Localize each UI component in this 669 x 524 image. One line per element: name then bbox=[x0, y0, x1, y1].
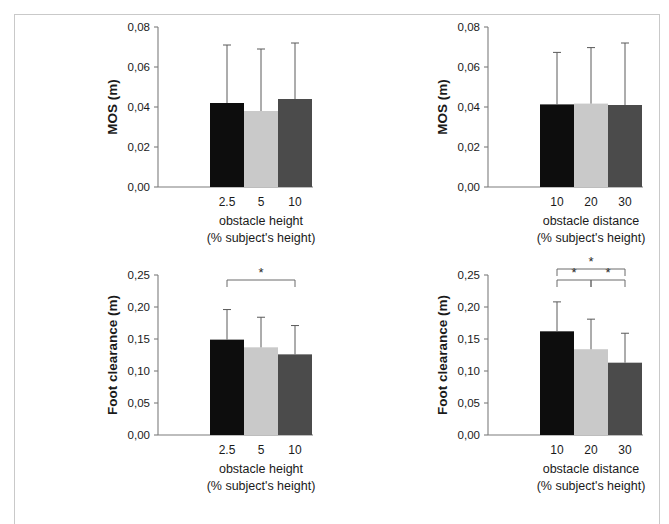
y-tick-label: 0,20 bbox=[458, 301, 480, 313]
significance-star: * bbox=[605, 265, 610, 280]
error-bar-5 bbox=[257, 317, 265, 347]
x-category-label: 2.5 bbox=[219, 195, 236, 209]
error-bar-2.5 bbox=[223, 310, 231, 340]
panel-foot-clearance-obstacle-height: 0,000,050,100,150,200,252.5510*Foot clea… bbox=[95, 258, 325, 498]
x-axis-subtitle: (% subject's height) bbox=[207, 479, 316, 493]
significance-star: * bbox=[588, 254, 593, 269]
bar-2.5 bbox=[210, 103, 244, 187]
bar-30 bbox=[608, 105, 642, 187]
bar-10 bbox=[540, 331, 574, 435]
error-bar-20 bbox=[587, 48, 595, 104]
y-tick-label: 0,20 bbox=[128, 301, 150, 313]
bar-10 bbox=[278, 354, 312, 435]
x-axis-title: obstacle distance bbox=[543, 214, 640, 228]
chart-foot-clearance-obstacle-height: 0,000,050,100,150,200,252.5510*Foot clea… bbox=[95, 258, 325, 498]
y-tick-label: 0,02 bbox=[458, 141, 480, 153]
significance-star: * bbox=[258, 265, 263, 280]
error-bar-20 bbox=[587, 319, 595, 349]
x-category-label: 10 bbox=[550, 443, 564, 457]
y-tick-label: 0,15 bbox=[128, 333, 150, 345]
chart-mos-obstacle-distance: 0,000,020,040,060,08102030MOS (m)obstacl… bbox=[425, 10, 655, 250]
y-axis-title: Foot clearance (m) bbox=[435, 295, 450, 415]
significance-star: * bbox=[571, 265, 576, 280]
x-axis-title: obstacle distance bbox=[543, 462, 640, 476]
bar-30 bbox=[608, 363, 642, 435]
error-bar-30 bbox=[621, 333, 629, 362]
error-bar-10 bbox=[553, 52, 561, 104]
significance-bracket-line bbox=[557, 269, 625, 276]
y-tick-label: 0,00 bbox=[128, 429, 150, 441]
y-tick-label: 0,05 bbox=[458, 397, 480, 409]
y-tick-label: 0,04 bbox=[128, 101, 151, 113]
bar-5 bbox=[244, 111, 278, 187]
bar-20 bbox=[574, 349, 608, 435]
y-tick-label: 0,00 bbox=[458, 429, 480, 441]
significance-bracket: * bbox=[227, 265, 295, 287]
panel-mos-obstacle-distance: 0,000,020,040,060,08102030MOS (m)obstacl… bbox=[425, 10, 655, 250]
bar-10 bbox=[278, 99, 312, 187]
x-category-label: 5 bbox=[258, 195, 265, 209]
significance-bracket-line bbox=[227, 280, 295, 287]
y-tick-label: 0,15 bbox=[458, 333, 480, 345]
bar-5 bbox=[244, 347, 278, 435]
y-tick-label: 0,08 bbox=[128, 21, 150, 33]
error-bar-30 bbox=[621, 43, 629, 105]
significance-bracket-line bbox=[591, 280, 625, 287]
x-category-label: 10 bbox=[288, 443, 302, 457]
chart-foot-clearance-obstacle-distance: 0,000,050,100,150,200,25102030***Foot cl… bbox=[425, 258, 655, 498]
error-bar-10 bbox=[553, 302, 561, 331]
x-category-label: 5 bbox=[258, 443, 265, 457]
x-axis-subtitle: (% subject's height) bbox=[537, 479, 646, 493]
error-bar-10 bbox=[291, 43, 299, 99]
y-tick-label: 0,00 bbox=[128, 181, 150, 193]
x-category-label: 2.5 bbox=[219, 443, 236, 457]
x-category-label: 10 bbox=[288, 195, 302, 209]
bar-2.5 bbox=[210, 340, 244, 435]
bar-20 bbox=[574, 104, 608, 187]
y-tick-label: 0,25 bbox=[128, 269, 150, 281]
x-category-label: 20 bbox=[584, 443, 598, 457]
significance-bracket: * bbox=[557, 254, 625, 276]
x-category-label: 10 bbox=[550, 195, 564, 209]
bar-10 bbox=[540, 104, 574, 187]
y-axis-title: Foot clearance (m) bbox=[105, 295, 120, 415]
error-bar-2.5 bbox=[223, 45, 231, 103]
x-axis-title: obstacle height bbox=[219, 462, 304, 476]
x-axis-title: obstacle height bbox=[219, 214, 304, 228]
y-tick-label: 0,08 bbox=[458, 21, 480, 33]
significance-bracket-line bbox=[557, 280, 591, 287]
x-axis-subtitle: (% subject's height) bbox=[537, 231, 646, 245]
y-tick-label: 0,06 bbox=[458, 61, 480, 73]
x-category-label: 20 bbox=[584, 195, 598, 209]
y-tick-label: 0,25 bbox=[458, 269, 480, 281]
x-axis-subtitle: (% subject's height) bbox=[207, 231, 316, 245]
error-bar-10 bbox=[291, 326, 299, 355]
panel-foot-clearance-obstacle-distance: 0,000,050,100,150,200,25102030***Foot cl… bbox=[425, 258, 655, 498]
x-category-label: 30 bbox=[618, 195, 632, 209]
y-tick-label: 0,10 bbox=[128, 365, 150, 377]
y-tick-label: 0,00 bbox=[458, 181, 480, 193]
panel-mos-obstacle-height: 0,000,020,040,060,082.5510MOS (m)obstacl… bbox=[95, 10, 325, 250]
y-axis-title: MOS (m) bbox=[435, 79, 450, 135]
y-tick-label: 0,04 bbox=[458, 101, 481, 113]
y-axis-title: MOS (m) bbox=[105, 79, 120, 135]
chart-mos-obstacle-height: 0,000,020,040,060,082.5510MOS (m)obstacl… bbox=[95, 10, 325, 250]
error-bar-5 bbox=[257, 49, 265, 111]
x-category-label: 30 bbox=[618, 443, 632, 457]
y-tick-label: 0,06 bbox=[128, 61, 150, 73]
y-tick-label: 0,10 bbox=[458, 365, 480, 377]
y-tick-label: 0,05 bbox=[128, 397, 150, 409]
y-tick-label: 0,02 bbox=[128, 141, 150, 153]
significance-bracket: * bbox=[591, 265, 625, 287]
significance-bracket: * bbox=[557, 265, 591, 287]
